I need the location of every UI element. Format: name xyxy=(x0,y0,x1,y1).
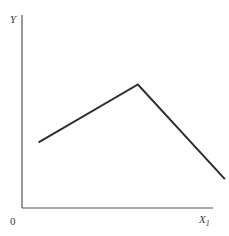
line-chart: Y 0 X1 xyxy=(0,0,229,236)
chart-canvas xyxy=(0,0,229,236)
y-axis-label: Y xyxy=(10,14,16,25)
origin-label: 0 xyxy=(10,216,16,227)
x-axis-label-sub: 1 xyxy=(206,219,210,228)
data-line xyxy=(39,85,225,180)
x-axis-label: X1 xyxy=(199,214,210,228)
x-axis-label-main: X xyxy=(199,213,206,225)
